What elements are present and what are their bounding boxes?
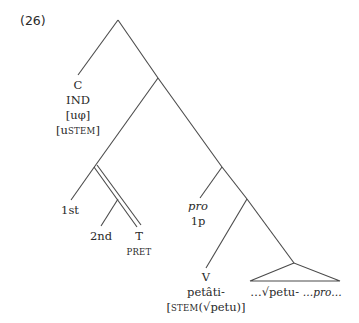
edge-n2-t-double-a [94, 167, 137, 227]
pro-feature-1p: 1p [191, 215, 206, 228]
c-feature-ind: IND [66, 94, 90, 107]
edge-n5-v [206, 199, 247, 268]
edge-n5-triangle [247, 199, 294, 263]
t-feature-pret: PRET [126, 246, 151, 259]
first-person-node: 1st [61, 204, 79, 217]
t-category: T [135, 230, 143, 243]
edge-n2-1st [71, 166, 95, 200]
edge-root-c [78, 20, 118, 75]
edge-n1-n3 [158, 78, 222, 167]
edge-root-n1 [118, 20, 158, 78]
c-feature-uphi: [uφ] [66, 109, 90, 122]
tree-edges [0, 0, 359, 323]
c-feature-ustem: [uSTEM] [56, 124, 100, 138]
edge-n1-n2 [95, 78, 158, 166]
c-category: C [74, 79, 83, 92]
v-feature-stem: [STEM(√petu)] [166, 301, 245, 315]
edge-n3-pro [200, 167, 222, 198]
edge-n4-2nd [101, 199, 118, 226]
edge-n3-n5 [222, 167, 247, 199]
v-form: petâti- [187, 286, 225, 299]
pro-label: pro [188, 200, 208, 213]
edge-n2-t-double-b [97, 165, 141, 225]
triangle-shape [250, 263, 340, 281]
v-category: V [202, 271, 210, 284]
second-person-node: 2nd [90, 230, 112, 243]
triangle-label: …√petu- …pro… [250, 286, 342, 299]
